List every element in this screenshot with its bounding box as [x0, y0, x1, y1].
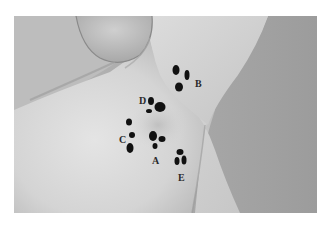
marker-dot-e: [175, 157, 180, 165]
marker-dot-c: [129, 132, 135, 138]
axilla-photo: [14, 16, 317, 213]
marker-dot-b: [185, 70, 190, 80]
marker-label-d: D: [139, 96, 146, 106]
marker-dot-a: [159, 136, 166, 142]
photo-canvas: [14, 16, 317, 213]
marker-dot-d: [155, 102, 166, 112]
marker-dot-b: [175, 83, 183, 92]
marker-dot-c: [126, 119, 132, 126]
marker-dot-d: [146, 109, 152, 113]
marker-dot-d: [148, 97, 154, 105]
marker-dot-c: [127, 143, 134, 153]
marker-dot-a: [149, 131, 157, 141]
marker-dot-a: [153, 143, 158, 149]
marker-label-b: B: [195, 79, 202, 89]
marker-dot-e: [177, 149, 184, 155]
marker-label-a: A: [152, 156, 159, 166]
marker-label-e: E: [178, 173, 185, 183]
marker-label-c: C: [119, 135, 126, 145]
marker-dot-e: [182, 156, 187, 165]
marker-dot-b: [173, 65, 180, 75]
